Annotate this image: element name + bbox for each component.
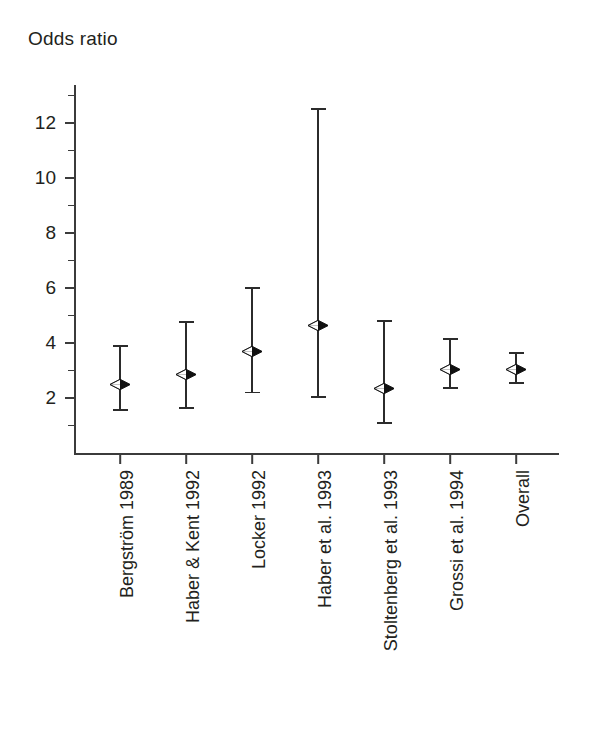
ci-lower-cap [245,392,260,394]
plot-area: 24681012 Bergström 1989Haber & Kent 1992… [0,0,615,744]
ci-upper-cap [179,321,194,323]
confidence-interval-line [185,322,187,407]
y-tick-major [65,342,74,344]
ci-upper-cap [113,345,128,347]
y-tick-label: 10 [14,167,56,189]
y-tick-minor [68,370,74,372]
y-tick-major [65,287,74,289]
y-tick-label: 4 [14,332,56,354]
y-tick-major [65,122,74,124]
forest-plot-figure: Odds ratio 24681012 Bergström 1989Haber … [0,0,615,744]
x-axis-label: Grossi et al. 1994 [447,470,468,611]
ci-upper-cap [377,320,392,322]
point-estimate-diamond [374,383,394,394]
x-axis-label: Bergström 1989 [117,470,138,598]
x-axis-label: Haber et al. 1993 [315,470,336,608]
ci-upper-cap [311,108,326,110]
y-tick-minor [68,205,74,207]
point-estimate-diamond [506,364,526,375]
ci-lower-cap [311,396,326,398]
x-axis-label: Locker 1992 [249,470,270,569]
confidence-interval-line [251,288,253,393]
y-tick-major [65,397,74,399]
ci-upper-cap [443,338,458,340]
point-estimate-diamond [440,364,460,375]
x-axis-label: Overall [513,470,534,527]
y-tick-major [65,232,74,234]
y-tick-minor [68,95,74,97]
ci-lower-cap [377,422,392,424]
point-estimate-diamond [308,320,328,331]
point-estimate-diamond [110,379,130,390]
y-tick-minor [68,425,74,427]
y-tick-label: 12 [14,112,56,134]
ci-lower-cap [179,407,194,409]
ci-upper-cap [245,287,260,289]
ci-lower-cap [113,409,128,411]
point-estimate-diamond [176,369,196,380]
y-tick-label: 6 [14,277,56,299]
x-tick [383,455,385,464]
x-tick [449,455,451,464]
x-tick [119,455,121,464]
confidence-interval-line [317,109,319,396]
x-tick [515,455,517,464]
y-tick-minor [68,315,74,317]
x-axis-label: Stoltenberg et al. 1993 [381,470,402,651]
y-tick-major [65,177,74,179]
ci-lower-cap [509,382,524,384]
y-tick-minor [68,260,74,262]
x-axis-label: Haber & Kent 1992 [183,470,204,623]
x-tick [317,455,319,464]
y-axis-line [74,85,76,455]
ci-lower-cap [443,387,458,389]
y-tick-label: 2 [14,387,56,409]
point-estimate-diamond [242,346,262,357]
x-tick [185,455,187,464]
y-tick-minor [68,150,74,152]
confidence-interval-line [383,321,385,423]
ci-upper-cap [509,352,524,354]
y-tick-label: 8 [14,222,56,244]
x-tick [251,455,253,464]
